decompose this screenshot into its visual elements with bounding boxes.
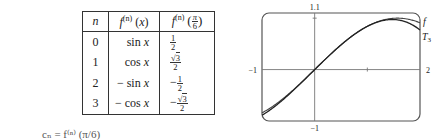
- label-t3: T3: [422, 31, 432, 44]
- chart-frame: [262, 13, 420, 121]
- label-f: f: [423, 16, 427, 27]
- y-top-label: 1.1: [310, 3, 320, 12]
- curve-f: [262, 18, 420, 113]
- sine-taylor-chart: 1.1 −1 −1 2 f T3: [0, 0, 432, 140]
- x-right-label: 2: [426, 66, 430, 75]
- curve-t3: [262, 20, 420, 116]
- y-bottom-label: −1: [310, 124, 319, 133]
- x-left-label: −1: [248, 66, 257, 75]
